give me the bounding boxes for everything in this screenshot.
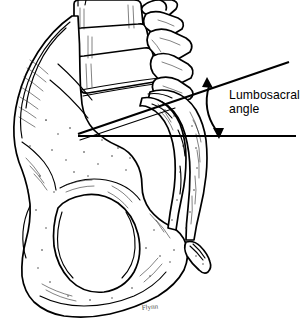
anatomy-illustration: Flynn	[0, 0, 308, 329]
lumbosacral-angle-figure: Flynn Lumbosacral angle	[0, 0, 308, 329]
coccyx	[185, 242, 211, 274]
artist-signature: Flynn	[141, 302, 159, 312]
lumbosacral-angle-label: Lumbosacral angle	[229, 88, 307, 116]
